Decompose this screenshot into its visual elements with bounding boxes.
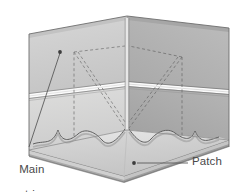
corner-vertical-seam bbox=[125, 18, 129, 130]
patch-label: Patch bbox=[192, 155, 222, 168]
left-wall-upper-face bbox=[29, 18, 127, 94]
main-strip-label: Main strip bbox=[6, 150, 45, 192]
main-strip-leader-dot bbox=[58, 50, 62, 54]
patch-leader-dot bbox=[132, 161, 136, 165]
figure-canvas: Main strip Patch bbox=[0, 0, 234, 192]
main-strip-label-line2: strip bbox=[19, 188, 41, 193]
right-wall-plane bbox=[127, 16, 229, 140]
main-strip-label-line1: Main bbox=[19, 163, 44, 175]
